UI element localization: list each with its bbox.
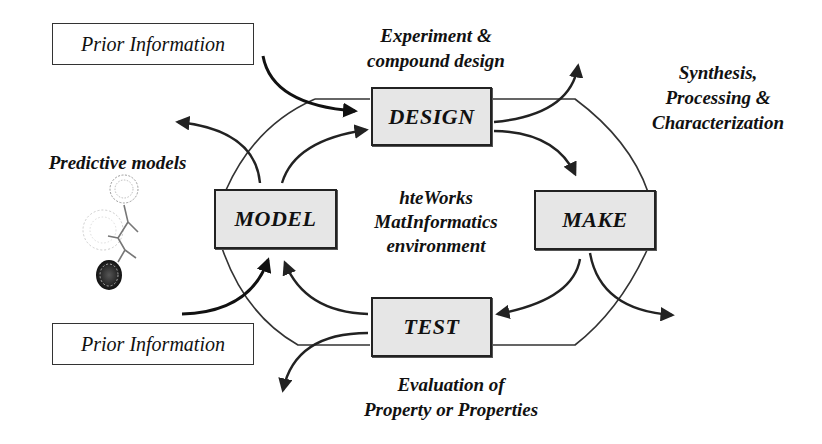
center-line-2: MatInformatics <box>366 210 506 234</box>
make-annotation-line-2: Processing & <box>628 85 808 110</box>
stage-design-label: DESIGN <box>388 104 474 130</box>
arrow-design-out <box>494 66 578 122</box>
stage-test-label: TEST <box>404 314 460 340</box>
make-annotation-line-1: Synthesis, <box>628 60 808 85</box>
model-annotation-line-1: Predictive models <box>30 150 205 175</box>
model-annotation: Predictive models <box>30 150 205 175</box>
stage-model: MODEL <box>214 189 337 249</box>
stage-test: TEST <box>371 297 492 357</box>
stage-model-label: MODEL <box>235 206 317 232</box>
prior-information-label-top: Prior Information <box>81 33 225 56</box>
design-annotation-line-2: compound design <box>356 48 516 73</box>
molecule-icon <box>83 175 138 290</box>
arrow-test-to-model <box>285 263 368 314</box>
center-environment-label: hteWorks MatInformatics environment <box>366 186 506 258</box>
center-line-3: environment <box>366 234 506 258</box>
design-annotation-line-1: Experiment & <box>356 23 516 48</box>
center-line-1: hteWorks <box>366 186 506 210</box>
prior-arrows <box>182 56 355 314</box>
arrow-model-to-design <box>282 130 366 183</box>
arrow-design-to-make <box>494 131 575 174</box>
arrow-prior-top-to-design <box>263 56 355 111</box>
stage-design: DESIGN <box>371 87 492 146</box>
stage-make-label: MAKE <box>562 207 628 233</box>
prior-information-label-bottom: Prior Information <box>81 333 225 356</box>
test-annotation-line-1: Evaluation of <box>356 372 546 397</box>
make-annotation: Synthesis, Processing & Characterization <box>628 60 808 135</box>
arrow-prior-bottom-to-model <box>182 260 268 314</box>
prior-information-box-top: Prior Information <box>52 23 254 65</box>
test-annotation-line-2: Property or Properties <box>356 397 546 422</box>
design-annotation: Experiment & compound design <box>356 23 516 73</box>
arrow-make-out <box>590 253 672 315</box>
prior-information-box-bottom: Prior Information <box>52 323 254 365</box>
test-annotation: Evaluation of Property or Properties <box>356 372 546 422</box>
make-annotation-line-3: Characterization <box>628 110 808 135</box>
stage-make: MAKE <box>534 190 656 250</box>
arrow-make-to-test <box>498 259 580 314</box>
